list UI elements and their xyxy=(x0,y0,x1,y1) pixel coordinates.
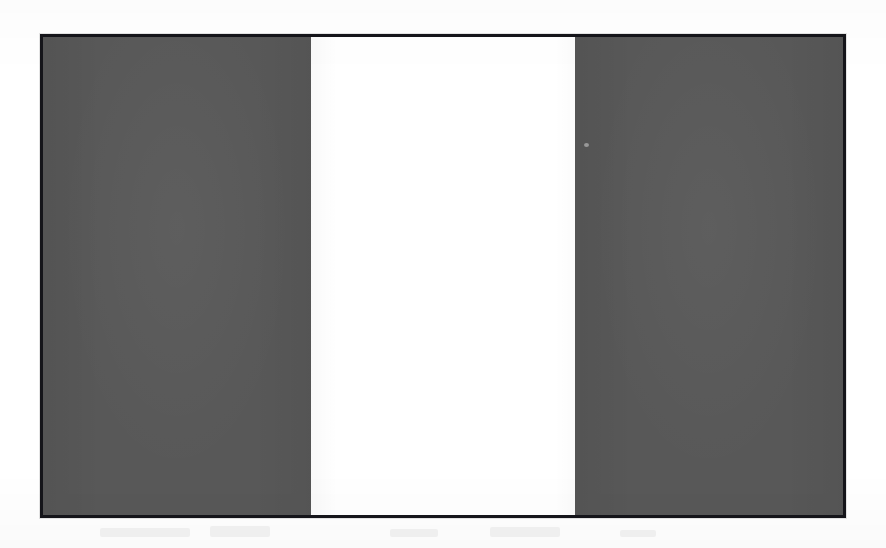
flag-image xyxy=(40,34,846,518)
flag-band-hoist xyxy=(43,37,311,515)
flag-band-fly xyxy=(575,37,843,515)
flag-band-center xyxy=(311,37,575,515)
page-root xyxy=(0,0,886,548)
flag-field xyxy=(43,37,843,515)
